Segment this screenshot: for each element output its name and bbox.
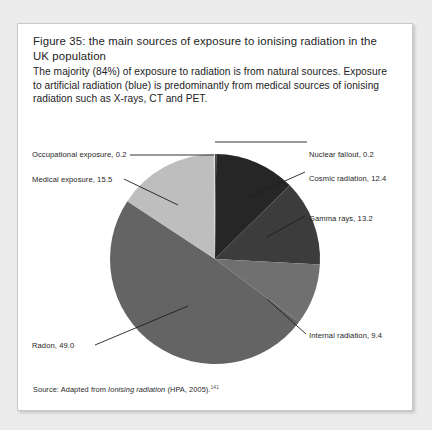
pie-label-medical-exposure: Medical exposure, 15.5 [32, 175, 112, 184]
source-title: Ionising radiation [108, 385, 165, 394]
source-footnote-marker: 141 [211, 384, 220, 390]
pie-slices [110, 154, 320, 364]
pie-label-radon: Radon, 49.0 [32, 341, 74, 350]
pie-chart: Occupational exposure, 0.2 Medical expos… [18, 24, 414, 412]
figure-source-note: Source: Adapted from Ionising radiation … [33, 382, 219, 395]
figure-panel: Figure 35: the main sources of exposure … [17, 23, 413, 411]
pie-label-nuclear-fallout: Nuclear fallout, 0.2 [309, 150, 374, 159]
pie-label-internal-radiation: Internal radiation, 9.4 [309, 331, 382, 340]
source-prefix: Source: Adapted from [33, 385, 108, 394]
pie-label-occupational-exposure: Occupational exposure, 0.2 [32, 150, 126, 159]
pie-label-cosmic-radiation: Cosmic radiation, 12.4 [309, 174, 386, 183]
pie-label-gamma-rays: Gamma rays, 13.2 [309, 214, 373, 223]
source-suffix: (HPA, 2005). [165, 385, 210, 394]
